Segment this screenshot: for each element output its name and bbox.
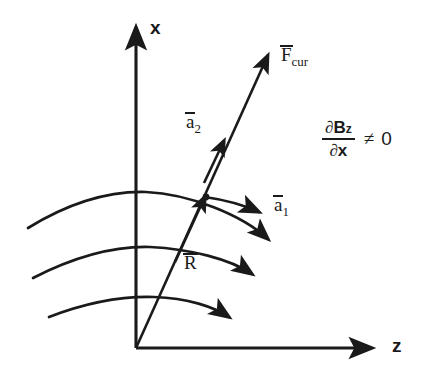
vector-label-r: R xyxy=(184,253,197,272)
overbar-a1 xyxy=(273,195,283,197)
f-cur-letter: F xyxy=(281,44,292,65)
field-symbol-b: B xyxy=(333,118,345,137)
vector-field-diagram: x z F cur a 2 a 1 R ∂Bz ∂x ≠0 xyxy=(0,0,446,375)
vector-origin-point xyxy=(203,194,210,201)
vector-label-a1: a 1 xyxy=(274,195,289,218)
r-letter: R xyxy=(184,252,197,273)
fraction-bar xyxy=(322,138,355,140)
a1-base: a xyxy=(274,195,282,214)
a1-subscript: 1 xyxy=(282,204,289,219)
derivative-fraction: ∂Bz ∂x xyxy=(322,119,355,159)
f-cur-base: F xyxy=(281,45,292,64)
field-line-arc-2 xyxy=(33,247,252,278)
partial-derivative-annotation: ∂Bz ∂x ≠0 xyxy=(322,119,392,159)
not-equal-sign: ≠ xyxy=(355,129,381,148)
a2-base: a xyxy=(186,112,194,131)
overbar-r xyxy=(183,253,198,255)
partial-symbol-denominator: ∂ xyxy=(329,141,337,160)
f-cur-subscript: cur xyxy=(292,54,309,69)
vector-a1 xyxy=(205,197,259,212)
x-axis-label: x xyxy=(150,18,161,37)
zero-value: 0 xyxy=(381,129,392,148)
fraction-numerator: ∂Bz xyxy=(322,119,355,137)
a1-letter: a xyxy=(274,194,282,215)
a2-subscript: 2 xyxy=(194,121,201,136)
vector-label-f-cur: F cur xyxy=(281,45,308,68)
field-line-arc-3 xyxy=(49,297,229,317)
denominator-var-x: x xyxy=(338,141,347,160)
fraction-denominator: ∂x xyxy=(322,141,355,159)
overbar-a2 xyxy=(185,112,195,114)
field-subscript-z: z xyxy=(346,122,352,136)
r-base: R xyxy=(184,253,197,272)
overbar-f xyxy=(280,45,293,47)
z-axis-label: z xyxy=(392,336,402,355)
a2-letter: a xyxy=(186,111,194,132)
field-line-arc-1 xyxy=(28,192,268,239)
diagram-canvas xyxy=(0,0,446,375)
vector-label-a2: a 2 xyxy=(186,112,201,135)
